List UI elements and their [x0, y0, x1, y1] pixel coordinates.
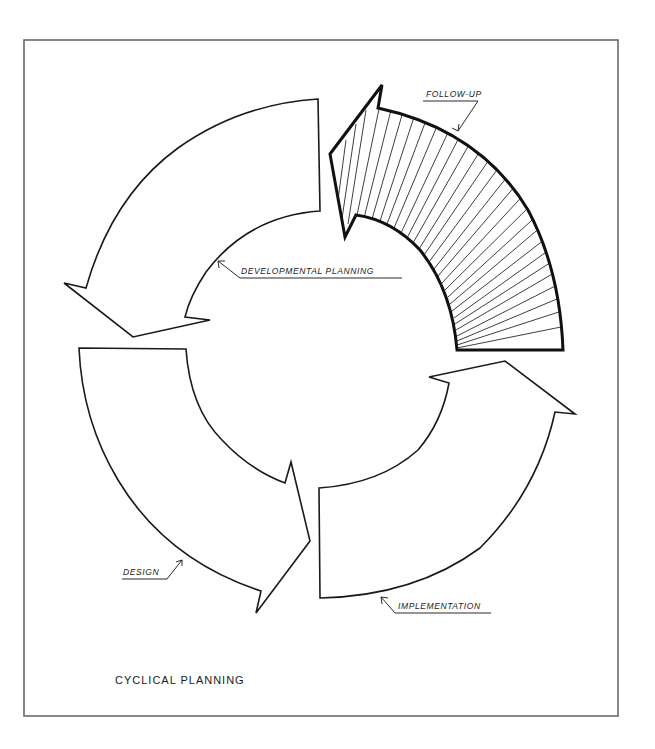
- implementation-label: IMPLEMENTATION: [398, 601, 481, 611]
- cyclical-planning-diagram: DEVELOPMENTAL PLANNING FOLLOW-UP DESIGN …: [0, 0, 655, 749]
- diagram-title: CYCLICAL PLANNING: [115, 674, 245, 686]
- arrow-design: [79, 348, 310, 613]
- arrow-follow-up: [330, 85, 566, 350]
- label-implementation: IMPLEMENTATION: [381, 597, 491, 613]
- design-arrow-shape: [79, 348, 310, 613]
- developmental-planning-arrow-shape: [64, 99, 320, 337]
- design-label: DESIGN: [123, 567, 159, 577]
- follow-up-label: FOLLOW-UP: [426, 89, 482, 99]
- arrow-implementation: [319, 361, 575, 598]
- implementation-arrow-shape: [319, 361, 575, 598]
- label-design: DESIGN: [122, 560, 182, 579]
- label-developmental-planning: DEVELOPMENTAL PLANNING: [218, 261, 402, 278]
- arrow-developmental-planning: [64, 99, 320, 337]
- developmental-planning-label: DEVELOPMENTAL PLANNING: [241, 266, 374, 276]
